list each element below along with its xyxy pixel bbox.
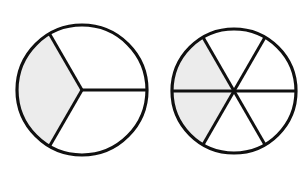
circle-sixths-group: Circle divided into sixths with two sixt…: [172, 29, 296, 153]
figure-svg: Circle divided into thirds with one thir…: [0, 0, 307, 171]
circle-thirds-group: Circle divided into thirds with one thir…: [17, 25, 147, 155]
fraction-circles-figure: Circle divided into thirds with one thir…: [0, 0, 307, 171]
